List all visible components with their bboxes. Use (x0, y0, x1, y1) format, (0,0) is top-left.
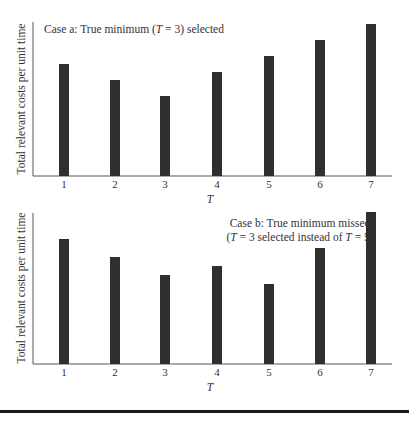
bar-T-1 (59, 64, 69, 176)
panel-case-b: 1234567Case b: True minimum missed(T = 3… (15, 212, 392, 393)
y-axis-label: Total relevant costs per unit time (15, 24, 28, 175)
bottom-rule-divider (0, 410, 409, 413)
x-tick-label: 4 (214, 366, 220, 378)
bar-T-3 (160, 96, 170, 176)
x-tick-label: 7 (368, 178, 374, 190)
panel-case-a: 1234567Case a: True minimum (T = 3) sele… (15, 22, 392, 205)
x-axis-label: T (207, 193, 215, 205)
y-axis-label: Total relevant costs per unit time (15, 213, 28, 364)
bar-T-4 (212, 266, 222, 364)
bar-T-4 (212, 72, 222, 176)
x-tick-label: 6 (317, 366, 323, 378)
x-tick-label: 2 (112, 178, 118, 190)
bar-T-6 (315, 248, 325, 364)
x-tick-label: 3 (162, 366, 168, 378)
bar-T-7 (366, 24, 376, 176)
panel-title-line: (T = 3 selected instead of T = 5) (226, 231, 373, 244)
x-tick-label: 1 (61, 178, 67, 190)
panel-title-line: Case a: True minimum (T = 3) selected (44, 23, 224, 36)
bar-T-5 (264, 56, 274, 176)
x-tick-label: 3 (162, 178, 168, 190)
x-tick-label: 2 (112, 366, 118, 378)
x-tick-label: 5 (266, 366, 272, 378)
bar-T-2 (110, 257, 120, 364)
bar-T-2 (110, 80, 120, 176)
x-tick-label: 5 (266, 178, 272, 190)
panel-title-line: Case b: True minimum missed (230, 217, 371, 229)
bar-T-3 (160, 275, 170, 364)
chart-figure: 1234567Case a: True minimum (T = 3) sele… (0, 0, 409, 422)
x-tick-label: 7 (368, 366, 374, 378)
bar-T-5 (264, 284, 274, 364)
x-tick-label: 6 (317, 178, 323, 190)
bar-T-1 (59, 239, 69, 364)
x-tick-label: 4 (214, 178, 220, 190)
x-axis-label: T (207, 381, 215, 393)
bar-T-6 (315, 40, 325, 176)
x-tick-label: 1 (61, 366, 67, 378)
